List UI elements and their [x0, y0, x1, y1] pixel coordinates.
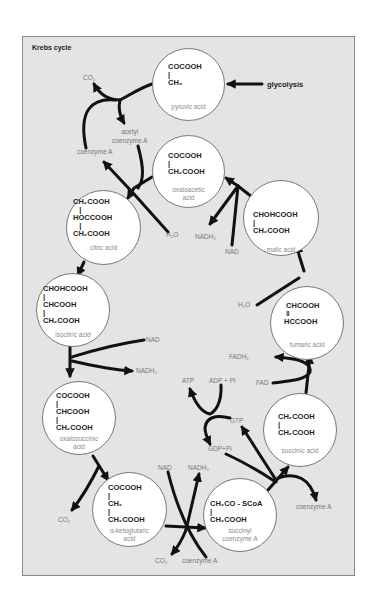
formula-malic: CHOHCOOH | CH₂COOH	[253, 211, 298, 235]
formula-succinic: CH₂COOH | CH₂COOH	[278, 413, 315, 437]
formula-succinyl: CH₂CO - SCoA | CH₂COOH	[210, 500, 263, 524]
name-malic: malic acid	[243, 246, 319, 254]
label-nadh2-oxalo: NADH₂	[195, 233, 216, 240]
name-oxaloacetic: oxaloacetic acid	[152, 186, 225, 202]
arrow-coa-loop	[84, 100, 115, 148]
label-nad-oxalo: NAD	[225, 248, 239, 255]
arrow-nad-keto	[168, 472, 206, 557]
formula-isocitric: CHOHCOOH | CHCOOH | CH₂COOH	[43, 285, 88, 325]
arrow-gtp-to-gdp	[205, 416, 230, 444]
formula-pyruvic: COCOOH | CH₃	[168, 63, 202, 87]
label-fadh2: FADH₂	[229, 353, 249, 360]
name-citric: citric acid	[66, 244, 141, 252]
formula-citric: CH₂COOH | HOCCOOH | CH₂COOH	[73, 198, 112, 238]
label-fad: FAD	[256, 379, 269, 386]
label-co2-bottom: CO₂	[155, 557, 167, 564]
arrow-coa-right	[278, 476, 316, 500]
label-coa-right: coenzyme A	[296, 503, 331, 510]
name-succinic: succinic acid	[263, 447, 337, 455]
arrow-co2-top	[94, 84, 120, 100]
label-h2o-citric: H₂O	[166, 231, 178, 238]
name-isocitric: isocitric acid	[36, 331, 110, 339]
arrow-co2-bottom	[172, 530, 186, 554]
label-coa-bottom: coenzyme A	[182, 557, 217, 564]
arrow-nadh2-keto	[186, 474, 199, 530]
label-gdp-pi: GDP+Pi	[208, 445, 232, 452]
label-coa-left: coenzyme A	[77, 148, 112, 155]
label-nad-isocitric: NAD	[146, 336, 160, 343]
formula-oxalosuccinic: COCOOH | CHCOOH | CH₂COOH	[56, 392, 93, 432]
formula-fumaric: CHCOOH ‖ HCCOOH	[284, 302, 319, 326]
name-pyruvic: pyruvic acid	[152, 103, 225, 111]
formula-oxaloacetic: COCOOH | CH₂COOH	[168, 152, 205, 176]
arrow-fad	[273, 357, 310, 383]
label-co2-oxalosucc: CO₂	[58, 516, 70, 523]
label-adp-pi: ADP + Pi	[209, 377, 235, 384]
label-nad-keto: NAD	[158, 464, 172, 471]
arrow-nadh2-isocitric	[72, 361, 132, 371]
formula-ketoglutaric: COCOOH | CH₂ | CH₂COOH	[108, 484, 145, 524]
label-nadh2-isocitric: NADH₂	[136, 367, 157, 374]
label-h2o-fumaric: H₂O	[238, 301, 250, 308]
label-gtp: GTP	[230, 417, 243, 424]
label-glycolysis: glycolysis	[267, 80, 303, 89]
label-nadh2-keto: NADH₂	[188, 464, 209, 471]
name-oxalosuccinic: oxalosuccinic acid	[42, 435, 116, 451]
arrow-pyruvic-out	[120, 84, 152, 100]
label-atp: ATP	[182, 377, 194, 384]
name-ketoglutaric: α-ketoglutaric acid	[92, 527, 167, 543]
arrow-to-acetyl	[119, 100, 124, 123]
arrow-adp-to-atp	[190, 385, 221, 414]
name-succinyl: succinyl coenzyme A	[203, 527, 277, 543]
label-co2-top: CO₂	[83, 74, 95, 81]
label-acetyl-coa: acetyl coenzyme A	[112, 127, 147, 145]
name-fumaric: fumaric acid	[270, 341, 344, 349]
